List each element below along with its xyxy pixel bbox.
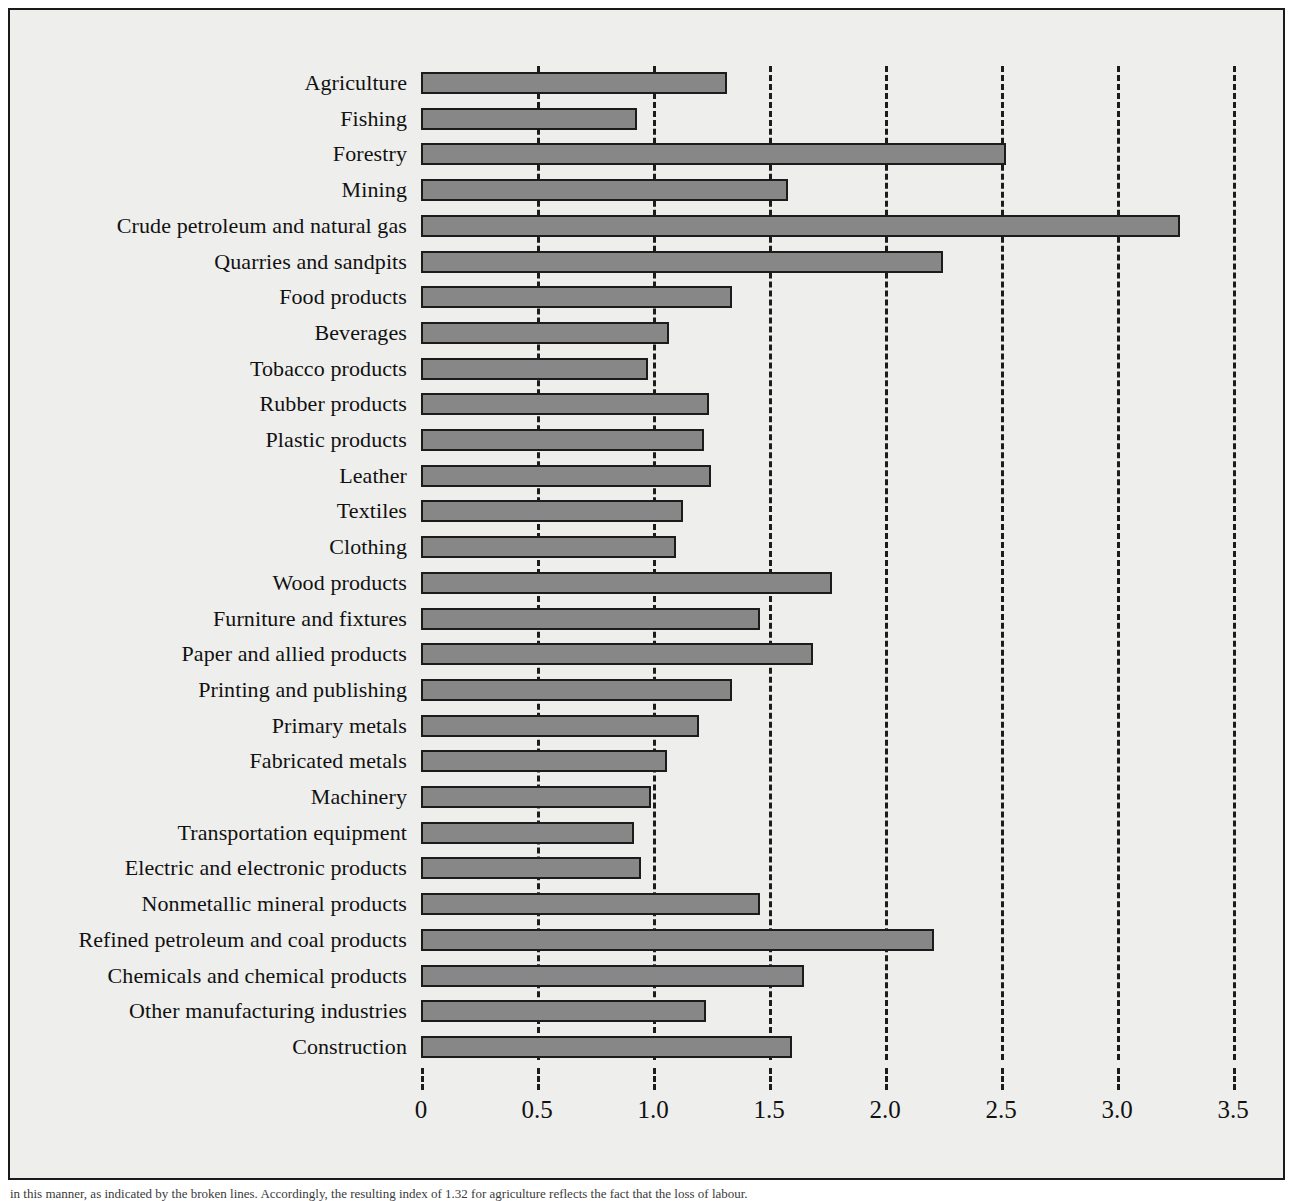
x-tick bbox=[653, 1068, 656, 1090]
bar-row: Plastic products bbox=[10, 423, 1283, 457]
x-tick-label: 0.5 bbox=[521, 1096, 552, 1124]
bar-row: Quarries and sandpits bbox=[10, 245, 1283, 279]
bar bbox=[421, 215, 1180, 237]
x-tick-label: 0 bbox=[415, 1096, 428, 1124]
bar bbox=[421, 857, 641, 879]
bar-row: Textiles bbox=[10, 494, 1283, 528]
bar bbox=[421, 750, 667, 772]
bar bbox=[421, 536, 676, 558]
x-tick bbox=[885, 1068, 888, 1090]
category-label: Other manufacturing industries bbox=[129, 994, 407, 1028]
category-label: Primary metals bbox=[272, 709, 407, 743]
bar bbox=[421, 1000, 706, 1022]
category-label: Plastic products bbox=[265, 423, 407, 457]
bar bbox=[421, 429, 704, 451]
category-label: Beverages bbox=[314, 316, 407, 350]
bar bbox=[421, 929, 934, 951]
x-tick-label: 3.0 bbox=[1101, 1096, 1132, 1124]
bar bbox=[421, 500, 683, 522]
bar bbox=[421, 465, 711, 487]
bar-row: Fabricated metals bbox=[10, 744, 1283, 778]
figure-frame: AgricultureFishingForestryMiningCrude pe… bbox=[8, 8, 1285, 1180]
bar bbox=[421, 715, 699, 737]
bar bbox=[421, 322, 669, 344]
category-label: Clothing bbox=[329, 530, 407, 564]
bar-row: Clothing bbox=[10, 530, 1283, 564]
category-label: Tobacco products bbox=[250, 352, 407, 386]
bar-row: Electric and electronic products bbox=[10, 851, 1283, 885]
bar bbox=[421, 1036, 792, 1058]
x-tick bbox=[769, 1068, 772, 1090]
category-label: Refined petroleum and coal products bbox=[78, 923, 407, 957]
bar-row: Machinery bbox=[10, 780, 1283, 814]
category-label: Paper and allied products bbox=[182, 637, 408, 671]
category-label: Textiles bbox=[337, 494, 407, 528]
bar-chart-plot-area: AgricultureFishingForestryMiningCrude pe… bbox=[10, 10, 1283, 1178]
category-label: Crude petroleum and natural gas bbox=[117, 209, 407, 243]
category-label: Quarries and sandpits bbox=[214, 245, 407, 279]
bar-row: Chemicals and chemical products bbox=[10, 959, 1283, 993]
bar-row: Forestry bbox=[10, 137, 1283, 171]
bar-row: Printing and publishing bbox=[10, 673, 1283, 707]
category-label: Machinery bbox=[311, 780, 407, 814]
bar bbox=[421, 786, 651, 808]
category-label: Leather bbox=[339, 459, 407, 493]
bar bbox=[421, 643, 813, 665]
bar-row: Mining bbox=[10, 173, 1283, 207]
x-tick bbox=[1117, 1068, 1120, 1090]
bar bbox=[421, 572, 832, 594]
bar-row: Tobacco products bbox=[10, 352, 1283, 386]
x-tick-label: 1.5 bbox=[753, 1096, 784, 1124]
x-tick-label: 3.5 bbox=[1217, 1096, 1248, 1124]
bar-row: Transportation equipment bbox=[10, 816, 1283, 850]
category-label: Forestry bbox=[333, 137, 407, 171]
bar-row: Primary metals bbox=[10, 709, 1283, 743]
category-label: Fabricated metals bbox=[250, 744, 407, 778]
bar-row: Rubber products bbox=[10, 387, 1283, 421]
category-label: Wood products bbox=[272, 566, 407, 600]
x-tick bbox=[1001, 1068, 1004, 1090]
x-tick-label: 2.5 bbox=[985, 1096, 1016, 1124]
bar-row: Fishing bbox=[10, 102, 1283, 136]
category-label: Agriculture bbox=[304, 66, 407, 100]
bar bbox=[421, 393, 709, 415]
x-tick-label: 2.0 bbox=[869, 1096, 900, 1124]
bar-row: Construction bbox=[10, 1030, 1283, 1064]
category-label: Transportation equipment bbox=[177, 816, 407, 850]
bar-row: Wood products bbox=[10, 566, 1283, 600]
bar bbox=[421, 965, 804, 987]
category-label: Fishing bbox=[340, 102, 407, 136]
bar-row: Furniture and fixtures bbox=[10, 602, 1283, 636]
bar bbox=[421, 679, 732, 701]
category-label: Mining bbox=[342, 173, 407, 207]
bar bbox=[421, 822, 634, 844]
bar-row: Other manufacturing industries bbox=[10, 994, 1283, 1028]
category-label: Construction bbox=[292, 1030, 407, 1064]
bar bbox=[421, 143, 1006, 165]
bar bbox=[421, 358, 648, 380]
category-label: Printing and publishing bbox=[198, 673, 407, 707]
x-tick bbox=[421, 1068, 424, 1090]
category-label: Nonmetallic mineral products bbox=[142, 887, 408, 921]
bar bbox=[421, 286, 732, 308]
category-label: Rubber products bbox=[259, 387, 407, 421]
category-label: Furniture and fixtures bbox=[213, 602, 407, 636]
bar bbox=[421, 179, 788, 201]
bar bbox=[421, 608, 760, 630]
category-label: Electric and electronic products bbox=[125, 851, 407, 885]
bar bbox=[421, 893, 760, 915]
bar bbox=[421, 108, 637, 130]
bar-row: Refined petroleum and coal products bbox=[10, 923, 1283, 957]
bar-row: Agriculture bbox=[10, 66, 1283, 100]
x-tick bbox=[537, 1068, 540, 1090]
x-tick bbox=[1233, 1068, 1236, 1090]
x-tick-label: 1.0 bbox=[637, 1096, 668, 1124]
bar bbox=[421, 251, 943, 273]
bar-row: Nonmetallic mineral products bbox=[10, 887, 1283, 921]
bar-row: Beverages bbox=[10, 316, 1283, 350]
bar-row: Leather bbox=[10, 459, 1283, 493]
category-label: Chemicals and chemical products bbox=[108, 959, 407, 993]
figure-caption: in this manner, as indicated by the brok… bbox=[10, 1186, 1285, 1201]
bar bbox=[421, 72, 727, 94]
category-label: Food products bbox=[279, 280, 407, 314]
